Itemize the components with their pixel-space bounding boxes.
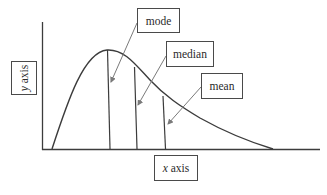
mean-label-box: mean — [201, 73, 243, 99]
median-label-box: median — [166, 41, 214, 67]
median-arrow — [138, 56, 166, 105]
median-label: median — [173, 48, 207, 60]
skewed-distribution-diagram: mode median mean x axis y axis — [0, 0, 327, 195]
mean-arrow — [168, 87, 201, 124]
mode-line — [108, 50, 111, 149]
mean-line — [163, 96, 166, 149]
x-axis-label: x axis — [163, 162, 190, 174]
distribution-curve — [52, 50, 273, 149]
x-axis-label-box: x axis — [154, 155, 198, 181]
median-line — [135, 67, 138, 149]
mode-label: mode — [146, 15, 172, 27]
y-axis-label-box: y axis — [11, 61, 37, 95]
y-axis-label: y axis — [18, 65, 30, 92]
mode-label-box: mode — [137, 8, 180, 33]
mode-arrow — [111, 23, 137, 82]
mean-label: mean — [210, 80, 235, 92]
